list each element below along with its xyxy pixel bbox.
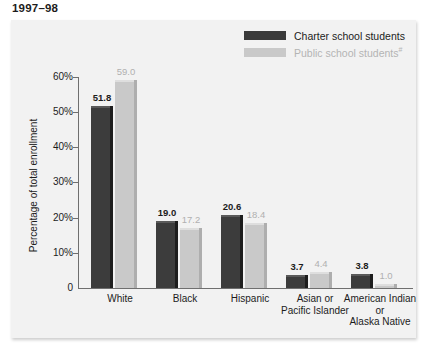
x-axis-line (78, 288, 413, 289)
page-title: 1997–98 (12, 2, 58, 14)
bar-black-charter[interactable] (156, 221, 178, 288)
bar-group-white: 51.8 59.0 (89, 77, 151, 288)
bar-group-american-indian: 3.8 1.0 (349, 77, 411, 288)
chart-panel: Charter school students Public school st… (11, 20, 416, 338)
bar-american-indian-public[interactable] (375, 284, 397, 288)
bar-group-asian: 3.7 4.4 (284, 77, 346, 288)
x-label-american-indian-line1: American Indian (328, 293, 430, 305)
bar-white-charter[interactable] (91, 106, 113, 288)
bar-value-white-public: 59.0 (106, 66, 146, 77)
bar-asian-public[interactable] (310, 272, 332, 288)
bar-value-american-indian-public: 1.0 (366, 270, 406, 281)
y-tick-label-30: 30% (29, 176, 73, 187)
y-tick-mark-40 (73, 147, 78, 148)
y-tick-label-60: 60% (29, 71, 73, 82)
y-axis-line (78, 77, 79, 289)
y-tick-mark-10 (73, 253, 78, 254)
bar-group-hispanic: 20.6 18.4 (219, 77, 281, 288)
bar-black-public[interactable] (180, 228, 202, 288)
y-tick-label-0: 0 (29, 282, 73, 293)
y-tick-mark-30 (73, 182, 78, 183)
bar-white-public[interactable] (115, 80, 137, 288)
bar-hispanic-charter[interactable] (221, 215, 243, 288)
bar-value-hispanic-public: 18.4 (236, 209, 276, 220)
x-label-american-indian-line2: or (328, 305, 430, 317)
y-tick-label-20: 20% (29, 212, 73, 223)
bar-value-black-public: 17.2 (171, 214, 211, 225)
bar-hispanic-public[interactable] (245, 223, 267, 288)
bar-value-asian-public: 4.4 (301, 258, 341, 269)
bar-group-black: 19.0 17.2 (154, 77, 216, 288)
x-label-american-indian-line3: Alaska Native (328, 316, 430, 328)
plot-area: Percentage of total enrollment 0 10% 20%… (11, 20, 416, 338)
y-tick-mark-20 (73, 218, 78, 219)
y-tick-label-10: 10% (29, 247, 73, 258)
y-tick-mark-50 (73, 112, 78, 113)
y-tick-label-40: 40% (29, 141, 73, 152)
x-label-american-indian: American Indian or Alaska Native (328, 293, 430, 328)
bar-asian-charter[interactable] (286, 275, 308, 288)
y-tick-mark-60 (73, 77, 78, 78)
y-tick-label-50: 50% (29, 106, 73, 117)
